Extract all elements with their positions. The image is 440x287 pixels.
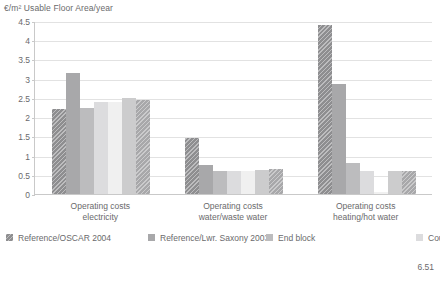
category-label-line: Operating costs	[299, 201, 432, 212]
y-tick-label: 1.5	[18, 132, 30, 142]
bar	[66, 73, 80, 194]
legend-item[interactable]: Council building	[416, 233, 440, 243]
bar	[269, 169, 283, 194]
bar-groups	[35, 22, 432, 194]
y-tick-label: 2.5	[18, 94, 30, 104]
category-label: Operating costselectricity	[34, 201, 167, 223]
y-tick-label: 2	[25, 113, 30, 123]
bar	[108, 102, 122, 194]
legend-label: Reference/Lwr. Saxony 2003	[160, 233, 269, 243]
legend-item[interactable]: Reference/OSCAR 2004	[6, 233, 148, 243]
bar	[332, 84, 346, 194]
y-tick-label: 4.5	[18, 17, 30, 27]
bar	[136, 100, 150, 194]
category-label: Operating costswater/waste water	[167, 201, 300, 223]
bar	[346, 163, 360, 194]
legend-item[interactable]: Reference/Lwr. Saxony 2003	[148, 233, 266, 243]
chart-legend: Reference/OSCAR 2004Reference/Lwr. Saxon…	[6, 232, 416, 244]
plot-area: 00.511.522.533.544.5	[34, 22, 432, 195]
bar	[318, 25, 332, 194]
category-label-line: heating/hot water	[299, 212, 432, 223]
figure-number: 6.51	[417, 262, 434, 272]
figure-container: €/m² Usable Floor Area/year 00.511.522.5…	[0, 0, 440, 287]
legend-swatch-icon	[266, 234, 273, 241]
category-label-line: water/waste water	[167, 212, 300, 223]
bar	[227, 171, 241, 194]
legend-swatch-icon	[416, 234, 423, 241]
axis-title: €/m² Usable Floor Area/year	[4, 3, 113, 13]
bar	[360, 171, 374, 194]
y-tick-label: 3.5	[18, 55, 30, 65]
y-tick-label: 0.5	[18, 171, 30, 181]
bar-group	[185, 22, 283, 194]
y-tick-label: 0	[25, 190, 30, 200]
y-tick-label: 1	[25, 152, 30, 162]
legend-swatch-icon	[148, 234, 155, 241]
bar-group	[318, 22, 416, 194]
bar	[402, 171, 416, 194]
legend-label: Reference/OSCAR 2004	[18, 233, 111, 243]
bar	[374, 192, 388, 194]
category-label-line: Operating costs	[167, 201, 300, 212]
legend-item[interactable]: End block	[266, 233, 416, 243]
bar	[52, 109, 66, 194]
category-label-line: Operating costs	[34, 201, 167, 212]
bar	[255, 170, 269, 194]
category-label-line: electricity	[34, 212, 167, 223]
y-tick-label: 4	[25, 36, 30, 46]
bar	[185, 138, 199, 194]
bar	[122, 98, 136, 194]
bar	[199, 165, 213, 194]
legend-swatch-icon	[6, 234, 13, 241]
legend-label: Council building	[428, 233, 440, 243]
category-label: Operating costsheating/hot water	[299, 201, 432, 223]
y-tick-label: 3	[25, 75, 30, 85]
bar	[213, 171, 227, 194]
bar	[94, 102, 108, 194]
y-tick-mark	[32, 195, 35, 196]
legend-label: End block	[278, 233, 315, 243]
bar	[388, 171, 402, 194]
bar	[80, 108, 94, 195]
bar	[241, 171, 255, 194]
bar-group	[52, 22, 150, 194]
